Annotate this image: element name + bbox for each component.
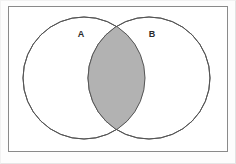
venn-diagram-canvas: A B — [0, 0, 236, 164]
set-label-a: A — [78, 29, 85, 39]
venn-diagram-figure: A B — [0, 0, 236, 164]
set-label-b: B — [149, 29, 156, 39]
